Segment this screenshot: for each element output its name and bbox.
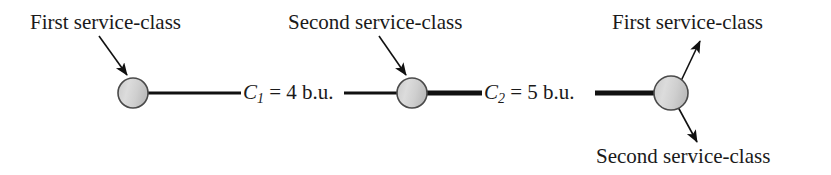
- link-2-value: 5: [527, 80, 538, 104]
- link-1-capacity-label: C1 = 4 b.u.: [243, 82, 334, 109]
- outgoing-arrow-first-service-class-right: [681, 41, 700, 81]
- link-1-subscript: 1: [257, 91, 264, 106]
- link-1-value: 4: [286, 80, 297, 104]
- figure-canvas: First service-class Second service-class…: [0, 0, 831, 175]
- link-2-unit: b.u.: [543, 80, 575, 104]
- label-second-service-class-right: Second service-class: [596, 146, 770, 167]
- node-3: [654, 76, 688, 110]
- callout-arrow-first-service-class-left: [99, 36, 127, 75]
- label-first-service-class-right: First service-class: [612, 12, 763, 33]
- link-2-variable: C: [484, 80, 498, 104]
- link-1-equals: =: [269, 80, 281, 104]
- callout-arrow-second-service-class-middle: [379, 36, 406, 75]
- link-2-capacity-label: C2 = 5 b.u.: [484, 82, 575, 109]
- link-2-equals: =: [510, 80, 522, 104]
- label-second-service-class-middle: Second service-class: [288, 12, 462, 33]
- label-first-service-class-left: First service-class: [30, 12, 181, 33]
- node-2: [397, 78, 427, 108]
- link-1-unit: b.u.: [302, 80, 334, 104]
- link-2-subscript: 2: [498, 91, 505, 106]
- outgoing-arrow-second-service-class-right: [678, 107, 697, 142]
- link-1-variable: C: [243, 80, 257, 104]
- node-1: [118, 78, 148, 108]
